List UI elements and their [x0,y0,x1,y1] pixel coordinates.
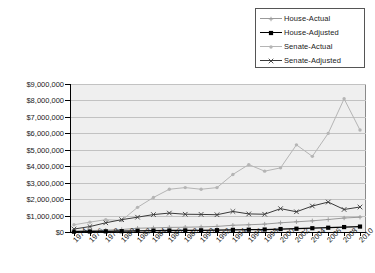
legend-item-house-actual[interactable]: House-Actual [260,12,364,26]
square-marker [269,31,273,35]
legend-label: House-Adjusted [282,27,339,39]
y-axis-tick-label: $7,000,000 [26,112,64,121]
legend-label: Senate-Actual [282,41,332,53]
y-axis-tick [65,117,70,118]
square-marker [326,226,330,230]
plus-marker [310,219,314,223]
dot-marker [279,166,282,169]
y-axis-tick-label: $5,000,000 [26,145,64,154]
chart-legend: House-ActualHouse-AdjustedSenate-ActualS… [255,8,365,68]
dot-marker [152,196,155,199]
dot-marker [136,206,139,209]
series-line-senate-actual [74,99,360,225]
x-marker [269,59,274,64]
legend-label: Senate-Adjusted [282,55,341,67]
y-axis-tick-label: $9,000,000 [26,80,64,89]
dot-marker [269,45,272,48]
square-marker [294,227,298,231]
plot-area [70,84,366,232]
dot-marker [104,218,107,221]
square-marker [358,224,362,228]
y-axis-tick [65,150,70,151]
y-axis-labels: $9,000,000$8,000,000$7,000,000$6,000,000… [0,0,68,273]
y-axis-tick [65,100,70,101]
y-axis-tick-label: $6,000,000 [26,129,64,138]
plus-marker [342,216,346,220]
square-marker [310,226,314,230]
y-axis-tick [65,216,70,217]
y-axis-tick-label: $3,000,000 [26,178,64,187]
plus-marker [278,221,282,225]
plus-marker [294,220,298,224]
y-axis-tick-label: $4,000,000 [26,162,64,171]
series-lines [70,84,366,232]
dot-marker [184,186,187,189]
y-axis-tick [65,232,70,233]
dot-marker [88,220,91,223]
y-axis-tick-label: $0 [56,228,64,237]
dot-marker [342,97,345,100]
dot-marker [168,188,171,191]
plus-marker [215,224,219,228]
legend-label: House-Actual [282,13,330,25]
plus-marker [247,223,251,227]
plus-marker [326,217,330,221]
dot-marker [260,41,282,53]
dot-marker [72,223,75,226]
dot-marker [263,169,266,172]
legend-item-senate-adjusted[interactable]: Senate-Adjusted [260,54,364,68]
y-axis-tick-label: $2,000,000 [26,195,64,204]
dot-marker [311,155,314,158]
plus-marker [260,13,282,25]
square-marker [260,27,282,39]
square-marker [342,225,346,229]
plus-marker [269,17,273,21]
x-marker [260,55,282,67]
y-axis-tick [65,199,70,200]
dot-marker [199,188,202,191]
dot-marker [358,128,361,131]
dot-marker [295,143,298,146]
dot-marker [215,186,218,189]
plus-marker [358,215,362,219]
y-axis-tick-label: $1,000,000 [26,211,64,220]
dot-marker [247,163,250,166]
dot-marker [231,173,234,176]
y-axis-tick [65,84,70,85]
y-axis-tick-label: $8,000,000 [26,96,64,105]
legend-item-senate-actual[interactable]: Senate-Actual [260,40,364,54]
plus-marker [262,222,266,226]
dot-marker [327,132,330,135]
y-axis-line [70,84,71,233]
legend-item-house-adjusted[interactable]: House-Adjusted [260,26,364,40]
y-axis-tick [65,133,70,134]
y-axis-tick [65,183,70,184]
plus-marker [231,223,235,227]
y-axis-tick [65,166,70,167]
